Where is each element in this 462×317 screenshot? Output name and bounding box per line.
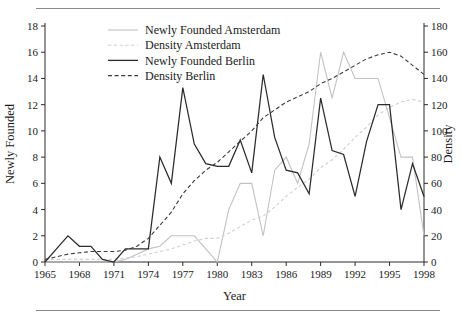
y-axis-left-ticklabel: 8 (33, 151, 39, 163)
x-axis-ticklabel: 1983 (241, 268, 264, 280)
y-axis-right-ticklabel: 0 (431, 256, 437, 268)
y-axis-left-ticklabel: 4 (33, 204, 39, 216)
y-axis-left-ticklabel: 10 (27, 125, 39, 137)
y-axis-right-ticklabel: 180 (431, 20, 448, 32)
x-axis-ticklabel: 1974 (137, 268, 160, 280)
legend-label-density-amsterdam: Density Amsterdam (145, 38, 241, 52)
series-line-newly-founded-amsterdam (45, 52, 424, 262)
x-axis-ticklabel: 1998 (413, 268, 436, 280)
y-axis-right-ticklabel: 160 (431, 46, 448, 58)
x-axis-ticklabel: 1992 (344, 268, 366, 280)
y-axis-right-ticklabel: 120 (431, 99, 448, 111)
x-axis-ticklabel: 1989 (310, 268, 333, 280)
y-axis-left-ticklabel: 6 (33, 177, 39, 189)
y-axis-left-ticklabel: 0 (33, 256, 39, 268)
legend-label-density-berlin: Density Berlin (145, 69, 215, 83)
x-axis-ticklabel: 1995 (379, 268, 402, 280)
y-axis-left-ticklabel: 16 (27, 46, 39, 58)
series-line-density-berlin (45, 52, 424, 259)
y-axis-left-ticklabel: 2 (33, 230, 39, 242)
x-axis-ticklabel: 1980 (206, 268, 229, 280)
x-axis-ticklabel: 1968 (68, 268, 91, 280)
x-axis-ticklabel: 1977 (172, 268, 195, 280)
y-axis-left-ticklabel: 18 (27, 20, 39, 32)
series-line-density-amsterdam (45, 99, 424, 259)
y-axis-right-ticklabel: 60 (431, 177, 443, 189)
y-axis-left-title: Newly Founded (3, 103, 17, 184)
legend-label-newly-founded-amsterdam: Newly Founded Amsterdam (145, 23, 281, 37)
legend-label-newly-founded-berlin: Newly Founded Berlin (145, 54, 255, 68)
x-axis-title: Year (223, 289, 247, 303)
x-axis-ticklabel: 1971 (103, 268, 125, 280)
y-axis-right-ticklabel: 140 (431, 72, 448, 84)
x-axis-ticklabel: 1965 (34, 268, 57, 280)
series-line-newly-founded-berlin (45, 75, 424, 262)
chart-figure: 0246810121416180204060801001201401601801… (0, 0, 462, 317)
line-chart-svg: 0246810121416180204060801001201401601801… (0, 0, 462, 317)
y-axis-left-ticklabel: 14 (27, 72, 39, 84)
y-axis-left-ticklabel: 12 (27, 99, 38, 111)
y-axis-right-ticklabel: 40 (431, 204, 443, 216)
x-axis-ticklabel: 1986 (275, 268, 298, 280)
y-axis-right-ticklabel: 20 (431, 230, 443, 242)
y-axis-right-title: Density (441, 124, 455, 164)
